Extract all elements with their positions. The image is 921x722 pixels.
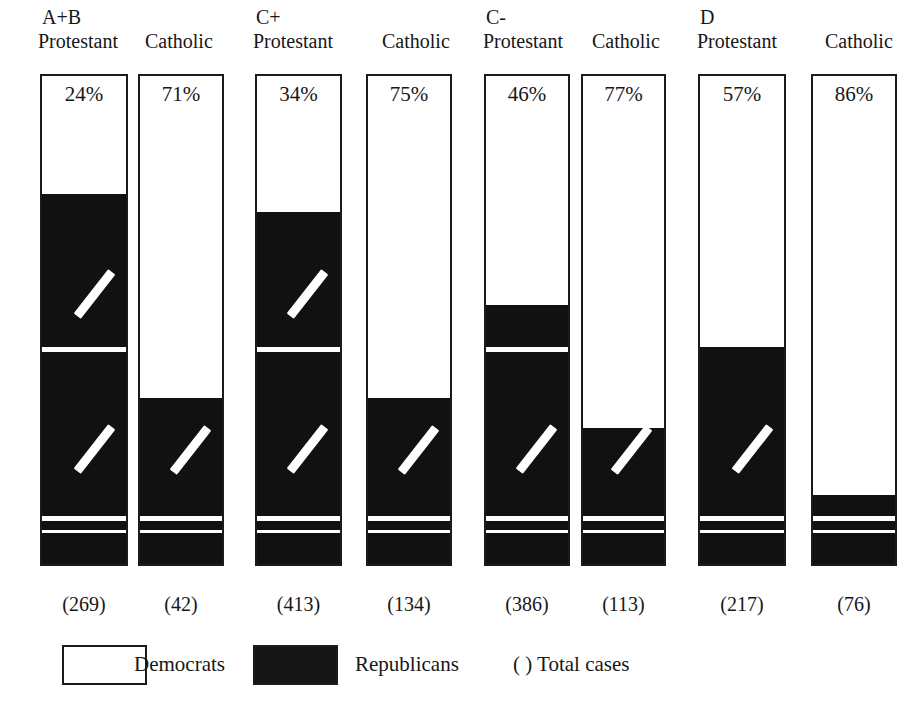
bar-divider-line [700, 530, 784, 533]
bar-percent-label: 24% [42, 82, 126, 106]
category-label-3: Protestant [253, 30, 333, 52]
bar-divider-line [700, 516, 784, 521]
bar-divider-line [257, 347, 340, 352]
category-label-8: Catholic [825, 30, 893, 52]
slash-mark-icon [74, 269, 116, 319]
group-header-d: D [700, 6, 714, 28]
bar-percent-label: 86% [813, 82, 895, 106]
legend: Democrats Republicans ( ) Total cases [0, 640, 921, 700]
bar-percent-label: 77% [583, 82, 664, 106]
slash-mark-icon [74, 424, 116, 474]
bar-c-plus-catholic[interactable]: 75% [366, 74, 452, 566]
bar-segment-republicans [42, 194, 126, 566]
slash-mark-icon [170, 425, 212, 475]
slash-mark-icon [398, 425, 440, 475]
bar-divider-line [486, 347, 568, 352]
bar-percent-label: 71% [140, 82, 222, 106]
bar-divider-line [486, 530, 568, 533]
bar-a-b-protestant[interactable]: 24% [40, 74, 128, 566]
bar-divider-line [486, 516, 568, 521]
bar-divider-line [257, 530, 340, 533]
category-label-2: Catholic [145, 30, 213, 52]
bar-divider-line [257, 516, 340, 521]
bar-segment-republicans [700, 347, 784, 566]
bar-d-catholic[interactable]: 86% [811, 74, 897, 566]
slash-mark-icon [287, 269, 329, 319]
bar-segment-democrats [813, 76, 895, 495]
slash-mark-icon [611, 425, 653, 475]
bar-divider-line [42, 530, 126, 533]
group-header-c-minus: C- [486, 6, 506, 28]
bar-segment-democrats [368, 76, 450, 398]
category-label-4: Catholic [382, 30, 450, 52]
bar-segment-republicans [257, 212, 340, 566]
slash-mark-icon [516, 424, 558, 474]
bar-percent-label: 57% [700, 82, 784, 106]
bar-divider-line [42, 347, 126, 352]
category-label-6: Catholic [592, 30, 660, 52]
bar-percent-label: 46% [486, 82, 568, 106]
bar-segment-republicans [486, 305, 568, 566]
legend-label-democrats: Democrats [134, 652, 225, 676]
bar-divider-line [813, 516, 895, 521]
bar-segment-republicans [813, 495, 895, 566]
bar-divider-line [583, 516, 664, 521]
bar-segment-republicans [368, 398, 450, 566]
total-cases-3: (413) [255, 593, 342, 615]
bar-segment-democrats [140, 76, 222, 398]
total-cases-6: (113) [581, 593, 666, 615]
category-label-1: Protestant [38, 30, 118, 52]
slash-mark-icon [732, 424, 774, 474]
bar-divider-line [368, 530, 450, 533]
bar-percent-label: 34% [257, 82, 340, 106]
bar-divider-line [583, 530, 664, 533]
category-label-7: Protestant [697, 30, 777, 52]
bar-segment-republicans [140, 398, 222, 566]
bar-divider-line [813, 530, 895, 533]
category-label-5: Protestant [483, 30, 563, 52]
bar-divider-line [368, 516, 450, 521]
legend-note-total-cases: ( ) Total cases [513, 652, 630, 676]
total-cases-5: (386) [484, 593, 570, 615]
bar-d-protestant[interactable]: 57% [698, 74, 786, 566]
total-cases-1: (269) [40, 593, 128, 615]
bar-divider-line [140, 530, 222, 533]
slash-mark-icon [287, 424, 329, 474]
total-cases-8: (76) [811, 593, 897, 615]
bar-segment-democrats [486, 76, 568, 305]
total-cases-4: (134) [366, 593, 452, 615]
legend-swatch-republicans [253, 645, 338, 685]
bar-segment-republicans [583, 428, 664, 566]
bar-percent-label: 75% [368, 82, 450, 106]
total-cases-7: (217) [698, 593, 786, 615]
bar-segment-democrats [583, 76, 664, 428]
total-cases-2: (42) [138, 593, 224, 615]
bar-c-plus-protestant[interactable]: 34% [255, 74, 342, 566]
bar-divider-line [140, 516, 222, 521]
bar-c-minus-protestant[interactable]: 46% [484, 74, 570, 566]
bar-a-b-catholic[interactable]: 71% [138, 74, 224, 566]
bar-segment-democrats [700, 76, 784, 347]
legend-label-republicans: Republicans [355, 652, 459, 676]
group-header-c-plus: C+ [256, 6, 281, 28]
bar-c-minus-catholic[interactable]: 77% [581, 74, 666, 566]
group-header-a-b: A+B [42, 6, 81, 28]
stacked-bar-chart: A+B C+ C- D Protestant Catholic Protesta… [0, 0, 921, 722]
bar-divider-line [42, 516, 126, 521]
